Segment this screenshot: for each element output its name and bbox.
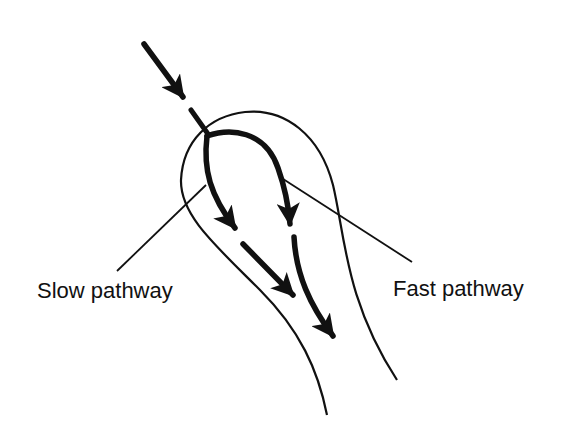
- slow-pathway-label: Slow pathway: [37, 280, 173, 302]
- split-arrows: [206, 132, 290, 228]
- entry-arrow: [144, 44, 208, 134]
- tissue-outline: [181, 112, 397, 415]
- fast-pathway-label: Fast pathway: [393, 278, 524, 300]
- pathway-diagram: [0, 0, 582, 440]
- slow-pathway-leader: [117, 185, 206, 271]
